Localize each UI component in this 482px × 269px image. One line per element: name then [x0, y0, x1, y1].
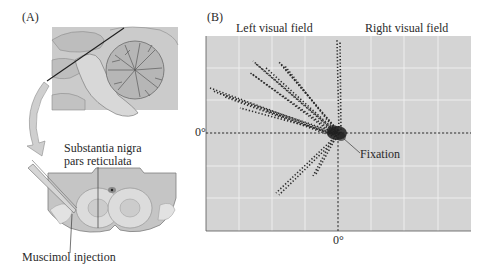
curved-arrow-icon [27, 82, 49, 156]
x-zero-label: 0° [333, 234, 344, 247]
brain-illustration [0, 0, 200, 269]
sagittal-brain-section [47, 27, 178, 116]
y-zero-label: 0° [195, 126, 206, 139]
left-visual-field-label: Left visual field [236, 21, 313, 36]
grid-lines [206, 36, 471, 231]
muscimol-injection-label: Muscimol injection [22, 251, 116, 264]
saccade-traces [210, 39, 341, 195]
snr-label-line2: pars reticulata [64, 155, 132, 168]
fixation-leader-line [343, 138, 360, 153]
panel-b-label: (B) [207, 10, 223, 25]
plot-area [206, 36, 471, 231]
coronal-midbrain-section [48, 168, 176, 232]
right-visual-field-label: Right visual field [365, 21, 448, 36]
fixation-label: Fixation [360, 148, 400, 161]
fixation-cluster [327, 125, 347, 141]
